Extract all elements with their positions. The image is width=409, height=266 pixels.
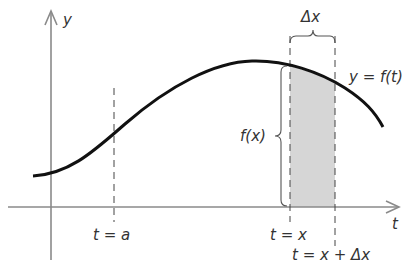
curve-label: y = f(t) <box>348 68 403 86</box>
y-axis <box>45 11 57 260</box>
delta-x-brace-icon <box>290 30 335 43</box>
fx-brace-icon <box>275 66 287 206</box>
marker-label-t-a: t = a <box>93 226 130 244</box>
shaded-strip <box>290 66 335 207</box>
height-label: f(x) <box>240 127 266 145</box>
x-axis-label: t <box>392 215 399 233</box>
x-axis <box>8 201 399 213</box>
marker-label-t-x: t = x <box>270 226 307 244</box>
area-function-diagram: y t y = f(t) Δx f(x) t = a t = x t = x +… <box>0 0 409 266</box>
marker-label-t-x-dx: t = x + Δx <box>292 246 370 264</box>
y-axis-label: y <box>62 11 73 29</box>
width-label: Δx <box>300 8 320 26</box>
